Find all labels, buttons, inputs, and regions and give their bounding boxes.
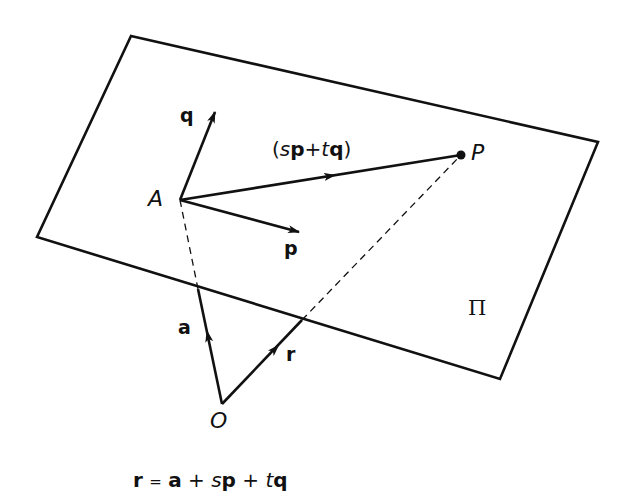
plane-vector-diagram: q A p P (sp+tq) Π a r O r = a + sp + tq [0,0,624,502]
point-p-dot [457,151,466,160]
equation: r = a + sp + tq [133,470,288,490]
eq-s: s [211,468,221,492]
eq-r: r [133,468,143,492]
label-sp-tq: (sp+tq) [272,139,351,159]
paren-open: ( [272,137,280,161]
label-r: r [286,345,295,364]
paren-close: ) [344,137,352,161]
vector-a [198,289,222,404]
eq-plus-1: + [188,468,205,492]
label-A: A [148,188,163,210]
label-O: O [210,410,227,432]
label-plane-pi: Π [468,298,486,319]
dashed-r-hidden [302,155,461,320]
scalar-s: s [280,137,290,161]
scalar-t: t [321,137,329,161]
eq-p: p [222,468,236,492]
vector-p [180,200,299,232]
eq-plus-2: + [242,468,259,492]
bold-p: p [290,137,304,161]
plane-outline [37,36,598,379]
eq-q: q [273,468,287,492]
dashed-a-hidden [180,200,198,289]
eq-equals: = [149,473,162,491]
plus-sign: + [305,137,322,161]
vector-sp-tq [180,155,461,200]
label-q: q [180,106,194,125]
eq-a: a [168,468,182,492]
bold-q: q [329,137,343,161]
diagram-graphics [0,0,624,502]
label-a: a [178,318,191,337]
label-P: P [471,142,484,164]
label-p: p [284,239,298,258]
